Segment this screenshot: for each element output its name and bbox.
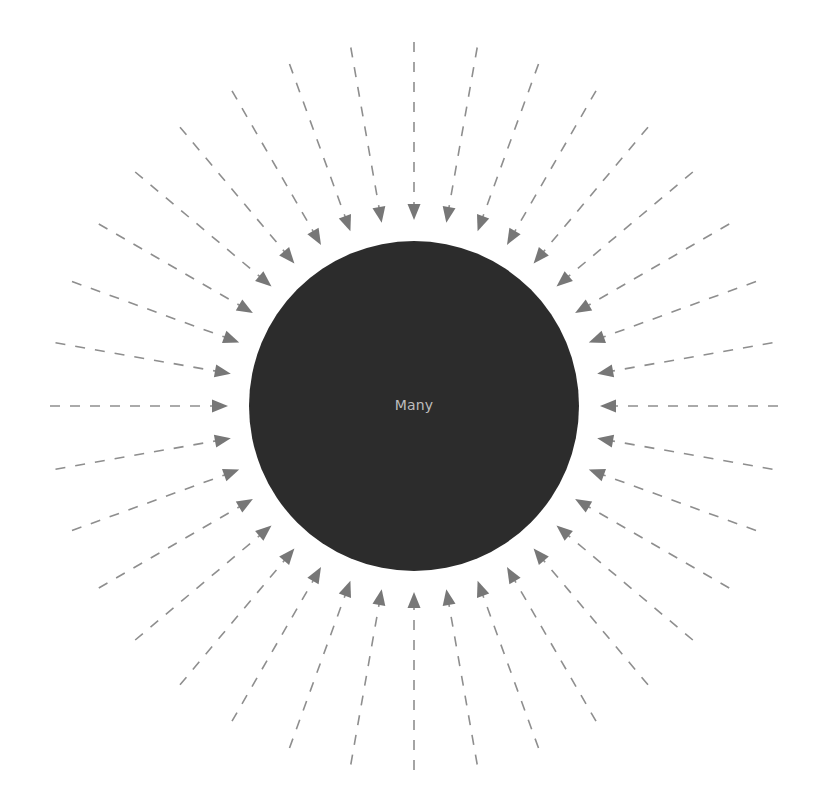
arrowhead-icon [534, 549, 549, 565]
arrow [72, 469, 239, 531]
arrowhead-icon [339, 581, 351, 598]
arrowhead-icon [279, 549, 294, 565]
arrow [534, 549, 648, 685]
arrowhead-icon [339, 214, 351, 231]
arrowhead-icon [307, 228, 321, 245]
arrow [180, 127, 294, 263]
arrow-shaft [567, 535, 693, 640]
radial-convergence-diagram [0, 0, 819, 812]
arrowhead-icon [589, 469, 606, 481]
arrow [557, 526, 693, 640]
arrow-shaft [449, 603, 478, 765]
arrow [589, 282, 756, 344]
arrow-shaft [587, 224, 729, 306]
arrow [534, 127, 648, 263]
arrow [290, 581, 352, 748]
arrowhead-icon [589, 331, 606, 343]
arrow-shaft [482, 594, 538, 748]
arrow [597, 435, 772, 470]
arrowhead-icon [255, 526, 271, 541]
arrow [589, 469, 756, 531]
arrow-shaft [611, 343, 773, 372]
arrowhead-icon [408, 592, 421, 608]
arrow [135, 172, 271, 286]
arrowhead-icon [214, 365, 231, 378]
arrow [507, 91, 596, 245]
arrowhead-icon [477, 214, 489, 231]
arrow [575, 224, 729, 313]
arrow [597, 343, 772, 378]
arrowhead-icon [222, 331, 239, 343]
arrowhead-icon [597, 435, 614, 448]
arrow [351, 48, 386, 223]
arrow [99, 499, 253, 588]
arrow [477, 64, 539, 231]
arrow [408, 42, 421, 220]
arrow [232, 567, 321, 721]
arrow-shaft [99, 506, 241, 588]
arrow-shaft [72, 474, 226, 530]
arrow-shaft [514, 91, 596, 233]
arrow [180, 549, 294, 685]
arrowhead-icon [575, 299, 592, 313]
arrowhead-icon [443, 589, 456, 606]
arrow-shaft [602, 474, 756, 530]
arrowhead-icon [557, 526, 573, 541]
arrow [99, 224, 253, 313]
arrowhead-icon [236, 499, 253, 513]
arrow [600, 400, 778, 413]
arrow [408, 592, 421, 770]
arrow [575, 499, 729, 588]
arrow [50, 400, 228, 413]
arrow [72, 282, 239, 344]
arrow-shaft [543, 127, 648, 253]
arrow-shaft [290, 64, 346, 218]
arrow-shaft [232, 91, 314, 233]
arrowhead-icon [214, 435, 231, 448]
central-circle [249, 241, 579, 571]
arrow-shaft [135, 172, 261, 277]
arrow-shaft [567, 172, 693, 277]
arrowhead-icon [443, 206, 456, 223]
arrowhead-icon [307, 567, 321, 584]
arrow [56, 435, 231, 470]
arrow [477, 581, 539, 748]
arrowhead-icon [279, 247, 294, 263]
arrow-shaft [449, 48, 478, 210]
arrow [232, 91, 321, 245]
arrow [290, 64, 352, 231]
arrow-shaft [587, 506, 729, 588]
arrowhead-icon [575, 499, 592, 513]
arrowhead-icon [212, 400, 228, 413]
arrowhead-icon [507, 567, 521, 584]
arrow [443, 589, 478, 764]
arrow [557, 172, 693, 286]
arrow-shaft [99, 224, 241, 306]
arrowhead-icon [373, 589, 386, 606]
arrowhead-icon [373, 206, 386, 223]
arrowhead-icon [600, 400, 616, 413]
arrow-shaft [72, 282, 226, 338]
arrow-shaft [351, 48, 380, 210]
arrow-shaft [290, 594, 346, 748]
arrow-shaft [56, 343, 218, 372]
arrow-shaft [135, 535, 261, 640]
arrowhead-icon [408, 204, 421, 220]
arrow [56, 343, 231, 378]
arrowhead-icon [255, 271, 271, 286]
arrowhead-icon [534, 247, 549, 263]
arrow-shaft [602, 282, 756, 338]
arrow-shaft [180, 559, 285, 685]
arrow [507, 567, 596, 721]
arrowhead-icon [477, 581, 489, 598]
arrow [443, 48, 478, 223]
arrowhead-icon [236, 299, 253, 313]
arrow-shaft [232, 579, 314, 721]
arrow-shaft [514, 579, 596, 721]
arrow [351, 589, 386, 764]
arrow-shaft [543, 559, 648, 685]
arrow [135, 526, 271, 640]
arrowhead-icon [557, 271, 573, 286]
arrow-shaft [482, 64, 538, 218]
arrow-shaft [611, 441, 773, 470]
